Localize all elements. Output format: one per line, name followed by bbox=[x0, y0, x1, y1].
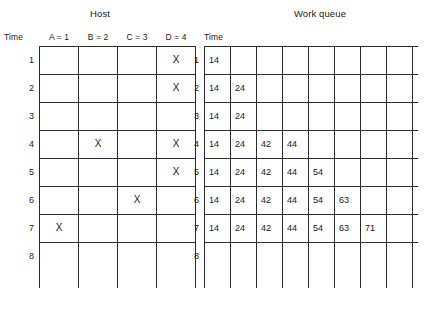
cell-mark-x: X bbox=[173, 83, 180, 93]
grid-cell: 24 bbox=[231, 186, 260, 214]
row-label-time: 8 bbox=[18, 251, 34, 261]
cell-mark-x: X bbox=[173, 55, 180, 65]
grid-cell: 24 bbox=[231, 102, 260, 130]
host-time-label: Time bbox=[4, 32, 23, 42]
row-label-time: 7 bbox=[183, 223, 199, 233]
grid-cell: 54 bbox=[309, 158, 338, 186]
host-column-header-b: B = 2 bbox=[78, 32, 118, 42]
grid-cell: 63 bbox=[335, 214, 364, 242]
grid-cell: 14 bbox=[205, 158, 234, 186]
host-column-header-d: D = 4 bbox=[156, 32, 196, 42]
row-label-time: 5 bbox=[18, 167, 34, 177]
row-label-time: 7 bbox=[18, 223, 34, 233]
grid-cell: 42 bbox=[257, 186, 286, 214]
row-label-time: 2 bbox=[18, 83, 34, 93]
grid-cell: 14 bbox=[205, 130, 234, 158]
row-label-time: 1 bbox=[18, 55, 34, 65]
figure-root: Host Time A = 1 B = 2 C = 3 D = 4 123456… bbox=[0, 0, 440, 314]
grid-cell: 24 bbox=[231, 214, 260, 242]
cell-mark-x: X bbox=[173, 167, 180, 177]
row-label-time: 5 bbox=[183, 167, 199, 177]
host-column-header-a: A = 1 bbox=[39, 32, 79, 42]
row-label-time: 3 bbox=[18, 111, 34, 121]
grid-cell: 54 bbox=[309, 186, 338, 214]
grid-cell: 24 bbox=[231, 158, 260, 186]
host-column-header-c: C = 3 bbox=[117, 32, 157, 42]
grid-cell: 42 bbox=[257, 158, 286, 186]
grid-cell: 42 bbox=[257, 214, 286, 242]
grid-cell: X bbox=[79, 130, 117, 158]
grid-vline bbox=[360, 46, 361, 288]
grid-cell: X bbox=[118, 186, 156, 214]
grid-cell: 14 bbox=[205, 186, 234, 214]
row-label-time: 1 bbox=[183, 55, 199, 65]
cell-mark-x: X bbox=[56, 223, 63, 233]
grid-cell: 42 bbox=[257, 130, 286, 158]
grid-vline bbox=[386, 46, 387, 288]
grid-cell: 44 bbox=[283, 186, 312, 214]
grid-cell: 71 bbox=[361, 214, 390, 242]
row-label-time: 6 bbox=[183, 195, 199, 205]
cell-mark-x: X bbox=[173, 139, 180, 149]
cell-mark-x: X bbox=[134, 195, 141, 205]
grid-cell: 24 bbox=[231, 74, 260, 102]
grid-cell: 54 bbox=[309, 214, 338, 242]
grid-cell: 14 bbox=[205, 46, 234, 74]
grid-vline bbox=[39, 46, 40, 288]
grid-vline bbox=[412, 46, 413, 288]
grid-cell: X bbox=[40, 214, 78, 242]
row-label-time: 3 bbox=[183, 111, 199, 121]
grid-cell: 63 bbox=[335, 186, 364, 214]
grid-cell: 14 bbox=[205, 74, 234, 102]
grid-cell: 24 bbox=[231, 130, 260, 158]
cell-mark-x: X bbox=[95, 139, 102, 149]
grid-vline bbox=[117, 46, 118, 288]
panel-host-title: Host bbox=[0, 8, 206, 19]
grid-cell: 14 bbox=[205, 102, 234, 130]
grid-cell: 44 bbox=[283, 130, 312, 158]
row-label-time: 8 bbox=[183, 251, 199, 261]
row-label-time: 4 bbox=[183, 139, 199, 149]
panel-work-queue-title: Work queue bbox=[206, 8, 434, 19]
grid-cell: 44 bbox=[283, 214, 312, 242]
grid-cell: 14 bbox=[205, 214, 234, 242]
grid-cell: 44 bbox=[283, 158, 312, 186]
row-label-time: 4 bbox=[18, 139, 34, 149]
row-label-time: 6 bbox=[18, 195, 34, 205]
grid-vline bbox=[78, 46, 79, 288]
row-label-time: 2 bbox=[183, 83, 199, 93]
work-queue-time-label: Time bbox=[204, 32, 223, 42]
